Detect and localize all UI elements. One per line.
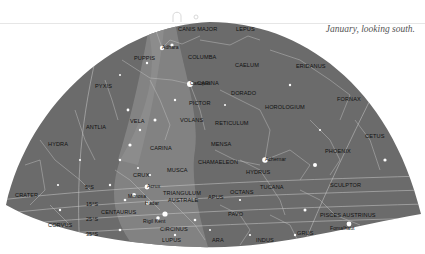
constellation-label: PHOENIX (325, 148, 351, 154)
constellation-label: ERIDANUS (296, 63, 326, 69)
star-label: Fomalhaut (330, 225, 355, 231)
constellation-label: ANTLIA (86, 124, 106, 130)
constellation-label: PYXIS (95, 83, 112, 89)
constellation-label: CAELUM (235, 62, 259, 68)
constellation-label: HYDRUS (246, 169, 270, 175)
constellation-label: MENSA (211, 141, 231, 147)
constellation-label: LEPUS (236, 26, 255, 32)
constellation-label: SCULPTOR (330, 182, 361, 188)
constellation-label: CRUX (133, 172, 149, 178)
constellation-label: MUSCA (167, 167, 188, 173)
constellation-label: PUPPIS (134, 55, 155, 61)
star-label: Achernar (265, 156, 286, 162)
declination-label: 5°S (85, 184, 94, 190)
constellation-label: LUPUS (162, 237, 181, 243)
star-label: Acrux (147, 183, 160, 189)
constellation-label: RETICULUM (215, 120, 249, 126)
declination-label: 35°S (86, 231, 98, 237)
star-label: Canopus (190, 80, 211, 86)
constellation-label: PISCES AUSTRINUS (320, 212, 376, 218)
star-label: Adhara (162, 44, 179, 50)
constellation-label: CIRCINUS (160, 226, 188, 232)
constellation-label: CANIS MAJOR (178, 26, 217, 32)
constellation-label: TUCANA (260, 184, 284, 190)
star-label: Mimosa (128, 193, 146, 199)
constellation-label: CRATER (15, 192, 38, 198)
constellation-label: VOLANS (180, 117, 203, 123)
constellation-label: PICTOR (189, 100, 211, 106)
constellation-label: VELA (130, 118, 145, 124)
constellation-label: HOROLOGIUM (265, 104, 305, 110)
constellation-label: AUSTRALE (168, 197, 198, 203)
constellation-label: APUS (208, 194, 224, 200)
constellation-label: OCTANS (230, 189, 254, 195)
star-label: Rigil Kent (143, 218, 165, 224)
constellation-label: COLUMBA (188, 54, 216, 60)
declination-label: 15°S (86, 201, 98, 207)
constellation-label: CENTAURUS (101, 209, 136, 215)
declination-label: 25°S (86, 216, 98, 222)
constellation-label: ARA (212, 237, 224, 243)
constellation-label: GRUS (297, 230, 314, 236)
constellation-label: TRIANGULUM (163, 190, 201, 196)
constellation-label: PAVO (228, 211, 243, 217)
constellation-label: INDUS (256, 237, 274, 243)
constellation-label: DORADO (231, 90, 256, 96)
constellation-label: CORVUS (48, 222, 72, 228)
constellation-label: CARINA (150, 145, 172, 151)
constellation-label: HYDRA (48, 141, 68, 147)
star-label: Hadar (145, 200, 159, 206)
constellation-label: CETUS (365, 133, 384, 139)
constellation-label: CHAMAELEON (198, 159, 238, 165)
chart-caption: January, looking south. (326, 24, 415, 34)
horizon-markers (173, 12, 198, 22)
constellation-label: FORNAX (337, 96, 361, 102)
